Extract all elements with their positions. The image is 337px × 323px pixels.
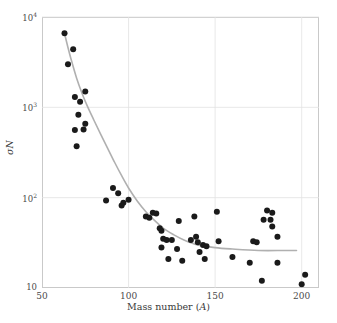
data-point <box>261 217 267 223</box>
data-point <box>115 190 121 196</box>
data-point <box>216 238 222 244</box>
data-point <box>158 245 164 251</box>
x-tick-label: 50 <box>22 292 62 301</box>
data-point <box>176 218 182 224</box>
data-point <box>65 61 71 67</box>
y-tick-label: 103 <box>11 102 37 112</box>
x-axis-title-paren-close: ) <box>206 301 210 312</box>
plot-canvas <box>0 0 337 323</box>
data-point <box>146 215 152 221</box>
data-point <box>247 260 253 266</box>
data-point <box>191 213 197 219</box>
data-point <box>269 210 275 216</box>
y-axis-title-text: σN <box>4 140 15 155</box>
data-point <box>259 278 265 284</box>
data-point <box>81 126 87 132</box>
data-point <box>264 208 270 214</box>
x-tick-label: 150 <box>195 292 235 301</box>
data-point <box>302 272 308 278</box>
data-point <box>82 121 88 127</box>
y-axis-title-wrap: σN <box>2 130 16 170</box>
data-point <box>203 243 209 249</box>
y-tick-label: 104 <box>11 12 37 22</box>
x-tick-label: 100 <box>109 292 149 301</box>
data-point <box>72 127 78 133</box>
data-point <box>77 99 83 105</box>
data-point <box>72 94 78 100</box>
data-point <box>174 246 180 252</box>
data-point <box>62 30 68 36</box>
x-axis-title: Mass number (A) <box>0 301 337 312</box>
data-point <box>188 237 194 243</box>
data-point <box>82 88 88 94</box>
y-axis-title: σN <box>4 128 15 168</box>
x-axis-title-text: Mass number <box>127 301 193 312</box>
data-point <box>74 143 80 149</box>
data-point <box>110 185 116 191</box>
data-point <box>179 258 185 264</box>
data-point <box>274 260 280 266</box>
data-point <box>269 223 275 229</box>
y-tick-label: 102 <box>11 193 37 203</box>
data-point <box>268 217 274 223</box>
data-point <box>158 228 164 234</box>
data-point <box>299 281 305 287</box>
data-point <box>75 112 81 118</box>
data-point <box>153 210 159 216</box>
data-point <box>254 239 260 245</box>
data-point <box>274 234 280 240</box>
data-point <box>119 202 125 208</box>
data-point <box>164 237 170 243</box>
data-point <box>195 239 201 245</box>
x-tick-label: 200 <box>282 292 322 301</box>
data-point <box>126 197 132 203</box>
data-point <box>165 256 171 262</box>
data-points <box>62 30 309 287</box>
data-point <box>214 209 220 215</box>
data-point <box>103 198 109 204</box>
data-point <box>169 237 175 243</box>
data-point <box>193 234 199 240</box>
data-point <box>202 256 208 262</box>
data-point <box>229 254 235 260</box>
data-point <box>197 249 203 255</box>
figure-container: 10102103104 50100150200 Mass number (A) … <box>0 0 337 323</box>
data-point <box>70 46 76 52</box>
gridlines <box>42 17 319 288</box>
y-tick-label: 10 <box>11 283 37 292</box>
